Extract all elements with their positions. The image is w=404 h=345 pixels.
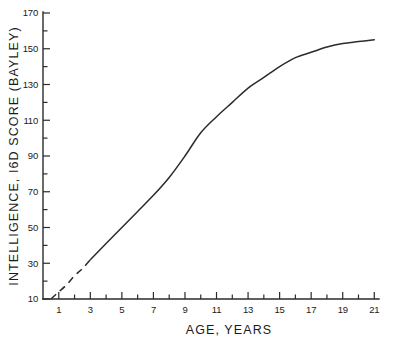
x-axis-title: AGE, YEARS [186,323,273,337]
x-tick-label: 7 [151,304,156,315]
y-tick-label: 50 [28,222,38,233]
x-tick-label: 5 [119,304,124,315]
y-tick-label: 150 [23,43,38,54]
chart-series-layer [51,40,374,299]
x-tick-label: 15 [275,304,285,315]
chart-figure: 1030507090110130150170 13579111315171921… [0,0,404,345]
y-tick-label: 10 [28,293,38,304]
x-tick-label: 1 [56,304,61,315]
series-line-measured [90,40,374,260]
y-tick-label: 70 [28,186,38,197]
y-axis-ticks [43,13,50,299]
y-tick-label: 170 [23,7,38,18]
x-axis-tick-labels: 13579111315171921 [56,304,379,315]
y-axis-tick-labels: 1030507090110130150170 [23,7,38,304]
y-tick-label: 130 [23,79,38,90]
x-tick-label: 13 [243,304,253,315]
series-line-extrapolated [51,260,90,299]
x-tick-label: 19 [338,304,348,315]
y-axis-title: INTELLIGENCE, I6D SCORE (BAYLEY) [7,26,21,285]
x-tick-label: 21 [369,304,379,315]
x-tick-label: 17 [306,304,316,315]
x-axis-ticks [59,292,374,299]
intelligence-vs-age-line-chart: 1030507090110130150170 13579111315171921… [0,0,404,345]
x-tick-label: 9 [182,304,187,315]
y-tick-label: 30 [28,258,38,269]
x-tick-label: 3 [88,304,93,315]
y-tick-label: 110 [23,115,38,126]
y-tick-label: 90 [28,150,38,161]
x-tick-label: 11 [212,304,221,315]
